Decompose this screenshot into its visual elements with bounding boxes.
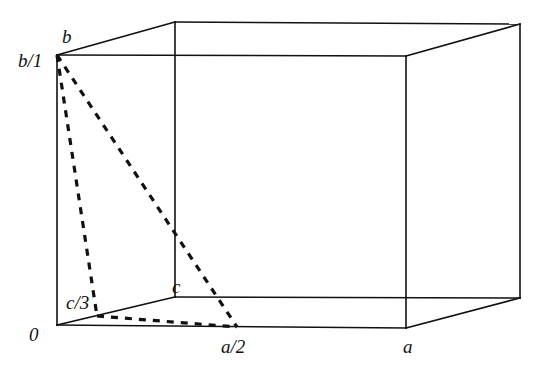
unit-cell-figure: b b/1 c/3 c 0 a/2 a: [0, 0, 547, 371]
plane-edge-b-to-c: [57, 55, 97, 316]
cell-edges: [57, 22, 520, 328]
dashed-intercept-triangle: [57, 55, 237, 327]
plane-edge-b-to-a: [57, 55, 237, 327]
edge-depth-bottom-right: [406, 298, 520, 328]
edge-front-top: [57, 55, 406, 56]
label-axis-a: a: [403, 337, 413, 356]
label-intercept-a-over-2: a/2: [221, 337, 245, 356]
edge-depth-top-right: [406, 24, 520, 56]
label-intercept-b-over-1: b/1: [18, 51, 42, 70]
label-axis-b: b: [62, 27, 72, 46]
label-intercept-c-over-3: c/3: [66, 293, 89, 312]
edge-front-bottom: [57, 325, 406, 328]
label-axis-c: c: [172, 277, 180, 296]
edge-back-top: [175, 22, 520, 24]
edge-depth-top-left: [57, 22, 175, 55]
unit-cell-drawing: [0, 0, 547, 371]
label-origin: 0: [29, 325, 39, 344]
edge-back-bottom: [175, 297, 520, 298]
